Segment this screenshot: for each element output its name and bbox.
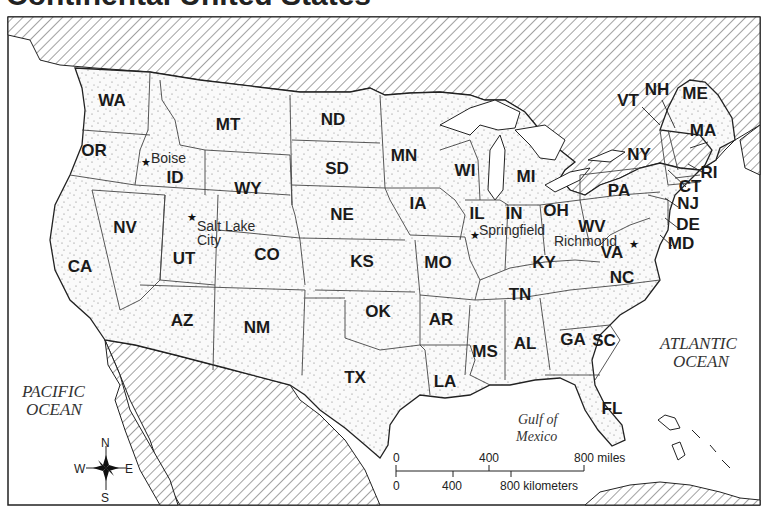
scale-km-400: 400 [442,479,462,493]
state-label-oh: OH [543,201,569,220]
state-label-or: OR [81,141,107,160]
state-label-nm: NM [244,318,270,337]
state-label-ia: IA [410,194,427,213]
state-label-wi: WI [455,161,476,180]
compass-w: W [74,462,86,476]
state-label-mi: MI [517,167,536,186]
state-label-ga: GA [560,330,586,349]
capital-star-icon: ★ [141,156,151,168]
scale-miles-0: 0 [393,451,400,465]
compass-e: E [125,462,133,476]
pacific-ocean-label: PACIFIC [21,382,86,401]
compass-s: S [101,491,109,505]
state-label-tx: TX [344,368,366,387]
state-label-sc: SC [592,331,616,350]
state-label-nh: NH [645,80,670,99]
state-label-de: DE [676,215,700,234]
scale-miles-800: 800 miles [574,451,625,465]
state-label-wa: WA [98,91,125,110]
state-label-ks: KS [350,252,374,271]
state-label-id: ID [167,168,184,187]
state-label-az: AZ [171,311,194,330]
compass-n: N [101,436,110,450]
state-label-co: CO [254,245,280,264]
state-label-ri: RI [701,163,718,182]
state-label-al: AL [514,334,537,353]
state-label-ky: KY [532,253,556,272]
state-label-nd: ND [321,110,346,129]
state-label-nc: NC [610,268,635,287]
city-label-springfield: Springfield [479,222,545,238]
state-label-vt: VT [617,91,639,110]
state-label-sd: SD [325,159,349,178]
city-label-boise: Boise [151,150,186,166]
city-label-richmond: Richmond [554,233,617,249]
state-label-ny: NY [627,145,651,164]
scale-miles-400: 400 [479,451,499,465]
state-label-ut: UT [173,249,196,268]
capital-star-icon: ★ [629,238,639,250]
state-label-mo: MO [424,253,451,272]
state-label-md: MD [668,234,694,253]
state-label-il: IL [469,204,484,223]
state-label-ar: AR [429,310,454,329]
state-label-ca: CA [68,257,93,276]
state-label-mt: MT [216,115,241,134]
state-label-me: ME [682,84,708,103]
pacific-ocean-label-2: OCEAN [26,400,83,419]
capital-star-icon: ★ [187,211,197,223]
state-label-tn: TN [509,285,532,304]
state-label-in: IN [506,204,523,223]
state-label-wy: WY [234,179,262,198]
scale-km-800: 800 kilometers [500,479,578,493]
state-label-la: LA [434,372,457,391]
atlantic-ocean-label: ATLANTIC [659,334,738,353]
state-label-ne: NE [330,205,354,224]
state-label-ok: OK [365,302,391,321]
state-label-nv: NV [113,218,137,237]
us-map: WAORCANVIDMTWYUTCOAZNMNDSDNEKSOKTXMNIAMO… [0,0,767,510]
state-label-mn: MN [391,146,417,165]
state-label-fl: FL [602,399,623,418]
gulf-of-mexico-label: Gulf of [518,412,559,427]
state-label-ma: MA [690,121,716,140]
state-label-ms: MS [472,342,498,361]
city-label-line2: City [197,232,221,248]
atlantic-ocean-label-2: OCEAN [673,352,730,371]
scale-km-0: 0 [393,479,400,493]
gulf-of-mexico-label-2: Mexico [515,429,557,444]
state-label-pa: PA [608,181,630,200]
state-label-nj: NJ [677,194,699,213]
